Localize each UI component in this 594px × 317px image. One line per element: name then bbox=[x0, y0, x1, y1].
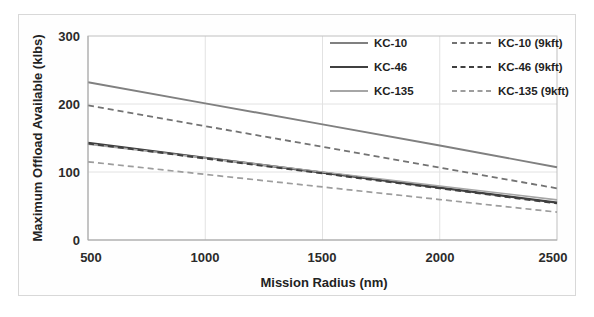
x-tick-label-1500: 1500 bbox=[308, 250, 337, 265]
x-tick-label-2500: 2500 bbox=[539, 250, 568, 265]
x-tick-label-500: 500 bbox=[80, 250, 102, 265]
y-tick-label-300: 300 bbox=[58, 29, 80, 44]
x-axis-title: Mission Radius (nm) bbox=[260, 275, 387, 290]
x-tick-label-1000: 1000 bbox=[191, 250, 220, 265]
legend-label: KC-46 (9kft) bbox=[498, 61, 563, 73]
legend-label: KC-10 (9kft) bbox=[498, 37, 563, 49]
chart-figure: 300 200 100 0 500 1000 1500 2000 2500 Mi… bbox=[0, 0, 594, 317]
legend-label: KC-135 bbox=[374, 85, 414, 97]
y-axis-title: Maximum Offload Available (klbs) bbox=[30, 34, 45, 241]
x-tick-label-2000: 2000 bbox=[426, 250, 455, 265]
legend-label: KC-46 bbox=[374, 61, 407, 73]
legend-label: KC-135 (9kft) bbox=[498, 85, 569, 97]
y-tick-label-0: 0 bbox=[73, 233, 80, 248]
legend-label: KC-10 bbox=[374, 37, 407, 49]
y-tick-label-200: 200 bbox=[58, 97, 80, 112]
line-chart: 300 200 100 0 500 1000 1500 2000 2500 Mi… bbox=[0, 0, 594, 317]
y-tick-label-100: 100 bbox=[58, 165, 80, 180]
